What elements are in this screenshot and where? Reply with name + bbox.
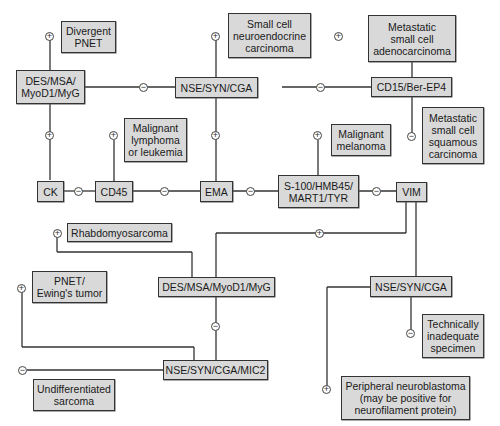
minus-sign-icon: − (74, 187, 83, 196)
plus-sign-icon: + (45, 32, 54, 41)
plus-sign-icon: + (211, 131, 220, 140)
outcome-metastatic-small-cell-squamous-carcinoma: Metastatic small cell squamous carcinoma (422, 107, 484, 164)
outcome-rhabdomyosarcoma: Rhabdomyosarcoma (67, 223, 172, 242)
plus-sign-icon: + (313, 131, 322, 140)
minus-sign-icon: − (407, 132, 416, 141)
minus-sign-icon: − (18, 366, 27, 375)
minus-sign-icon: − (406, 329, 415, 338)
plus-sign-icon: + (45, 131, 54, 140)
node-ema: EMA (200, 181, 233, 202)
node-nse-syn-cga-mid: NSE/SYN/CGA (370, 276, 452, 297)
outcome-pnet-ewings-tumor: PNET/ Ewing's tumor (32, 271, 107, 303)
plus-sign-icon: + (53, 229, 62, 238)
node-s100-hmb45-mart1-tyr: S-100/HMB45/ MART1/TYR (278, 175, 359, 208)
minus-sign-icon: − (316, 83, 325, 92)
minus-sign-icon: − (139, 83, 148, 92)
minus-sign-icon: − (246, 187, 255, 196)
outcome-undifferentiated-sarcoma: Undifferentiated sarcoma (33, 379, 115, 411)
node-nse-syn-cga-mic2: NSE/SYN/CGA/MIC2 (163, 360, 268, 380)
outcome-technically-inadequate-specimen: Technically inadequate specimen (422, 314, 484, 358)
plus-sign-icon: + (322, 385, 331, 394)
outcome-malignant-lymphoma-or-leukemia: Malignant lymphoma or leukemia (124, 118, 187, 162)
plus-sign-icon: + (334, 32, 343, 41)
node-vim: VIM (396, 182, 427, 202)
plus-sign-icon: + (17, 284, 26, 293)
node-ck: CK (37, 181, 64, 202)
node-nse-syn-cga-top: NSE/SYN/CGA (175, 77, 258, 98)
outcome-divergent-pnet: Divergent PNET (61, 21, 116, 53)
node-cd15-ber-ep4: CD15/Ber-EP4 (371, 77, 452, 97)
node-des-msa-myod1-myg-top: DES/MSA/ MyoD1/MyG (16, 70, 85, 104)
plus-sign-icon: + (211, 32, 220, 41)
outcome-peripheral-neuroblastoma: Peripheral neuroblastoma (may be positiv… (341, 376, 470, 420)
plus-sign-icon: + (315, 229, 324, 238)
outcome-malignant-melanoma: Malignant melanoma (331, 124, 391, 156)
minus-sign-icon: − (372, 187, 381, 196)
outcome-metastatic-small-cell-adenocarcinoma: Metastatic small cell adenocarcinoma (368, 15, 456, 62)
minus-sign-icon: − (160, 187, 169, 196)
node-cd45: CD45 (95, 181, 133, 202)
minus-sign-icon: − (211, 322, 220, 331)
plus-sign-icon: + (109, 131, 118, 140)
outcome-small-cell-neuroendocrine-carcinoma: Small cell neuroendocrine carcinoma (228, 13, 311, 58)
node-des-msa-myod1-myg-mid: DES/MSA/MyoD1/MyG (158, 277, 275, 297)
